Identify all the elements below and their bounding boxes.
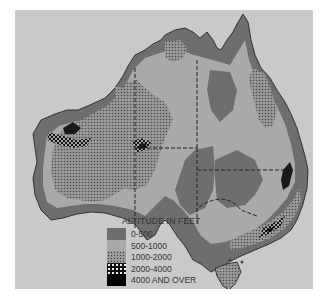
legend-item-0-500: 0-500 [107,228,257,240]
map-frame: ALTITUDE IN FEET 0-500 500-1000 1000-200… [15,10,313,289]
legend-label: 2000-4000 [131,264,172,274]
legend-item-4000-over: 4000 AND OVER [107,274,257,286]
legend-label: 500-1000 [131,241,167,251]
legend-item-500-1000: 500-1000 [107,240,257,252]
legend-swatch [107,251,126,263]
legend-swatch [107,263,126,275]
legend-label: 4000 AND OVER [131,275,196,285]
legend-label: 0-500 [131,229,153,239]
legend-swatch [107,240,126,252]
legend-item-2000-4000: 2000-4000 [107,263,257,275]
legend-label: 1000-2000 [131,252,172,262]
legend-swatch [107,228,126,240]
legend-swatch [107,274,126,286]
legend-title: ALTITUDE IN FEET [122,216,201,226]
legend-item-1000-2000: 1000-2000 [107,251,257,263]
